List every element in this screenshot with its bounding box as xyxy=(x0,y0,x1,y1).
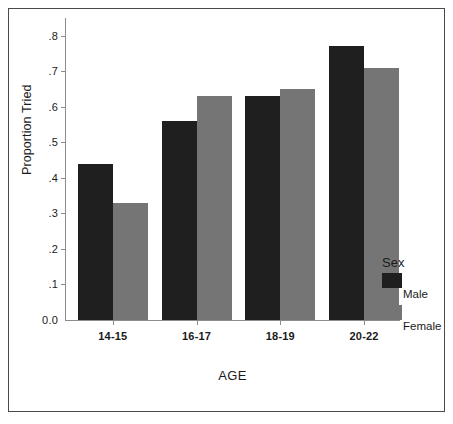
y-axis-title: Proportion Tried xyxy=(20,84,34,175)
legend-label-male: Male xyxy=(403,288,428,300)
bar-female-16-17 xyxy=(197,96,232,320)
bar-group xyxy=(162,18,232,320)
legend-swatch-female-icon xyxy=(382,305,402,320)
y-tick-label: .4 xyxy=(48,172,58,184)
x-tick-mark xyxy=(364,320,365,325)
x-axis-label-20-22: 20-22 xyxy=(319,330,409,342)
x-tick-mark xyxy=(197,320,198,325)
bar-group xyxy=(245,18,315,320)
legend-label-female: Female xyxy=(403,320,441,332)
y-tick-label: .6 xyxy=(48,101,58,113)
x-axis-label-18-19: 18-19 xyxy=(235,330,325,342)
y-tick: 0.0 xyxy=(65,320,66,321)
x-axis-title: AGE xyxy=(65,368,400,383)
chart-figure: Proportion Tried 0.0.1.2.3.4.5.6.7.8 14-… xyxy=(0,0,453,424)
y-tick-label: 0.0 xyxy=(42,314,58,326)
bar-male-14-15 xyxy=(78,164,113,320)
x-axis-label-14-15: 14-15 xyxy=(68,330,158,342)
bar-male-18-19 xyxy=(245,96,280,320)
x-tick-mark xyxy=(280,320,281,325)
bar-group xyxy=(78,18,148,320)
y-tick-label: .3 xyxy=(48,207,58,219)
y-tick-label: .7 xyxy=(48,65,58,77)
y-tick-label: .8 xyxy=(48,30,58,42)
bar-male-16-17 xyxy=(162,121,197,320)
legend-title: Sex xyxy=(382,255,404,270)
legend-swatch-male-icon xyxy=(382,273,402,288)
y-tick-label: .5 xyxy=(48,136,58,148)
x-tick-mark xyxy=(113,320,114,325)
y-tick-label: .2 xyxy=(48,243,58,255)
bars-layer xyxy=(65,18,400,320)
x-axis-label-16-17: 16-17 xyxy=(152,330,242,342)
bar-female-18-19 xyxy=(280,89,315,320)
y-tick-label: .1 xyxy=(48,278,58,290)
plot-area: 0.0.1.2.3.4.5.6.7.8 14-1516-1718-1920-22 xyxy=(65,18,400,320)
bar-female-14-15 xyxy=(113,203,148,320)
x-axis-line xyxy=(65,320,400,321)
bar-male-20-22 xyxy=(329,46,364,320)
